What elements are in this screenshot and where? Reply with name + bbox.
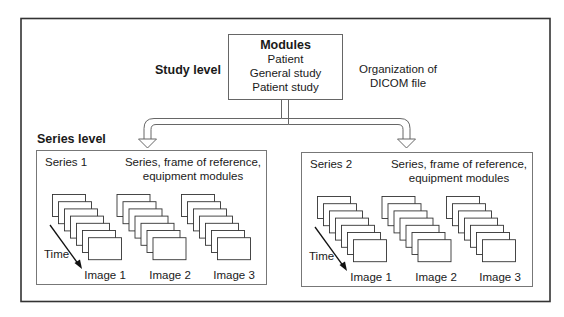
image-stacks xyxy=(318,197,516,262)
image-stacks xyxy=(53,195,251,260)
image-frame xyxy=(153,238,186,260)
image-frame xyxy=(418,240,451,262)
image-frame xyxy=(354,240,387,262)
series-name: Series 1 xyxy=(45,156,87,168)
arrowhead-left xyxy=(139,139,157,148)
arrowhead-right xyxy=(398,139,416,148)
series-level-label: Series level xyxy=(37,132,106,146)
image-label: Image 1 xyxy=(84,269,126,281)
connector-pipe xyxy=(144,100,410,140)
module-item: Patient xyxy=(268,53,305,65)
module-item: General study xyxy=(250,67,322,79)
series-modules-line: equipment modules xyxy=(409,172,510,184)
image-label: Image 3 xyxy=(479,271,521,283)
image-frame xyxy=(218,238,251,260)
series-name: Series 2 xyxy=(310,158,352,170)
modules-heading: Modules xyxy=(260,38,311,52)
series-modules-line: Series, frame of reference, xyxy=(391,158,527,170)
series-box-1: Series 1 Series, frame of reference, equ… xyxy=(37,151,267,285)
image-frame xyxy=(89,238,122,260)
module-item: Patient study xyxy=(252,81,319,93)
dicom-organization-diagram: Modules Patient General study Patient st… xyxy=(0,0,564,317)
image-label: Image 1 xyxy=(350,271,392,283)
time-label: Time xyxy=(44,248,69,260)
image-label: Image 3 xyxy=(213,269,255,281)
study-level-label: Study level xyxy=(155,63,221,77)
image-label: Image 2 xyxy=(415,271,457,283)
time-label: Time xyxy=(309,250,334,262)
caption-line: Organization of xyxy=(359,63,438,75)
image-frame xyxy=(483,240,516,262)
series-modules-line: Series, frame of reference, xyxy=(125,156,261,168)
series-modules-line: equipment modules xyxy=(143,170,244,182)
caption-line: DICOM file xyxy=(370,77,426,89)
image-label: Image 2 xyxy=(149,269,191,281)
series-box-2: Series 2 Series, frame of reference, equ… xyxy=(302,153,533,287)
